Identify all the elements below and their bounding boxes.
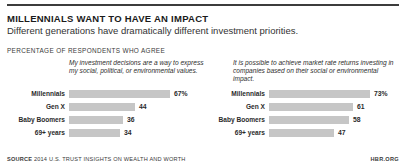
brand-label: HBR.ORG <box>370 156 399 162</box>
bar-category-label: Millennials <box>7 90 69 97</box>
bar-row: Baby Boomers 36 <box>7 113 205 126</box>
bar-category-label: Baby Boomers <box>205 116 269 123</box>
bar-track: 58 <box>269 116 399 124</box>
bar-row: Gen X 61 <box>205 100 399 113</box>
bar-category-label: 69+ years <box>7 129 69 136</box>
chart-panels: My investment decisions are a way to exp… <box>7 59 399 139</box>
bar-fill <box>69 129 120 137</box>
bar-value-label: 58 <box>349 116 361 123</box>
bar-row: 69+ years 34 <box>7 126 205 139</box>
bar-track: 36 <box>69 116 205 124</box>
bar-fill <box>69 90 170 98</box>
bar-value-label: 44 <box>135 103 147 110</box>
bar-track: 73% <box>269 90 399 98</box>
bar-track: 34 <box>69 129 205 137</box>
chart-panel-left: My investment decisions are a way to exp… <box>7 59 205 139</box>
bar-track: 47 <box>269 129 399 137</box>
bar-fill <box>269 116 349 124</box>
bar-category-label: Gen X <box>7 103 69 110</box>
bar-fill <box>69 116 123 124</box>
top-rule-divider <box>7 4 399 6</box>
bar-value-label: 73% <box>370 90 388 97</box>
bar-fill <box>269 90 370 98</box>
bar-value-label: 61 <box>353 103 365 110</box>
bar-row: Millennials 67% <box>7 87 205 100</box>
chart-panel-right: It is possible to achieve market rate re… <box>205 59 399 139</box>
bar-category-label: Gen X <box>205 103 269 110</box>
bar-fill <box>269 103 353 111</box>
bar-category-label: 69+ years <box>205 129 269 136</box>
bar-track: 67% <box>69 90 205 98</box>
bar-fill <box>69 103 135 111</box>
chart-question-right: It is possible to achieve market rate re… <box>205 59 399 85</box>
source-line: SOURCE 2014 U.S. TRUST INSIGHTS ON WEALT… <box>7 156 186 162</box>
page-subtitle: Different generations have dramatically … <box>7 25 399 37</box>
bar-value-label: 34 <box>120 129 132 136</box>
bar-rows-left: Millennials 67% Gen X 44 Baby Boomers <box>7 87 205 139</box>
bar-track: 44 <box>69 103 205 111</box>
bar-fill <box>269 129 334 137</box>
bar-category-label: Millennials <box>205 90 269 97</box>
source-tag: SOURCE <box>7 156 32 162</box>
bar-value-label: 36 <box>123 116 135 123</box>
bar-rows-right: Millennials 73% Gen X 61 Baby Boomers <box>205 87 399 139</box>
infographic-container: MILLENNIALS WANT TO HAVE AN IMPACT Diffe… <box>0 4 406 167</box>
bar-row: Millennials 73% <box>205 87 399 100</box>
source-text: 2014 U.S. TRUST INSIGHTS ON WEALTH AND W… <box>34 156 186 162</box>
bar-track: 61 <box>269 103 399 111</box>
bar-row: Baby Boomers 58 <box>205 113 399 126</box>
bar-value-label: 67% <box>170 90 188 97</box>
chart-kicker-label: PERCENTAGE OF RESPONDENTS WHO AGREE <box>7 47 399 54</box>
chart-question-left: My investment decisions are a way to exp… <box>7 59 205 85</box>
bar-value-label: 47 <box>334 129 346 136</box>
bar-category-label: Baby Boomers <box>7 116 69 123</box>
bar-row: Gen X 44 <box>7 100 205 113</box>
bar-row: 69+ years 47 <box>205 126 399 139</box>
footer: SOURCE 2014 U.S. TRUST INSIGHTS ON WEALT… <box>7 156 399 162</box>
page-title: MILLENNIALS WANT TO HAVE AN IMPACT <box>7 13 399 24</box>
